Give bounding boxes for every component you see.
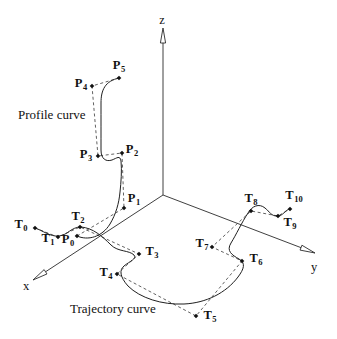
point-label-subscript: 2 — [134, 148, 138, 158]
point-label-T10: T10 — [285, 189, 302, 203]
point-label-P1: P1 — [128, 192, 140, 206]
control-point-marker-T7 — [210, 245, 215, 250]
diagram-canvas — [0, 0, 337, 339]
control-point-marker-T2 — [78, 225, 83, 230]
point-label-subscript: 6 — [258, 257, 262, 267]
point-label-P0: P0 — [62, 233, 74, 247]
axis-label-x: x — [23, 280, 29, 293]
point-label-base: P — [126, 142, 134, 156]
axis-x-arrowhead-icon — [33, 270, 47, 280]
point-label-P3: P3 — [80, 148, 92, 162]
point-label-subscript: 10 — [294, 194, 303, 204]
point-label-base: T — [195, 236, 203, 250]
control-point-marker-T0 — [33, 226, 38, 231]
point-label-base: T — [249, 251, 257, 265]
point-label-T1: T1 — [41, 232, 54, 246]
point-label-subscript: 0 — [70, 238, 74, 248]
point-label-T2: T2 — [71, 210, 84, 224]
point-label-subscript: 5 — [121, 64, 125, 74]
axis-y-arrowhead-icon — [300, 245, 315, 253]
point-label-T9: T9 — [283, 216, 296, 230]
point-label-subscript: 0 — [23, 223, 27, 233]
axis-z-arrowhead-icon — [160, 28, 165, 43]
point-label-subscript: 2 — [80, 215, 84, 225]
point-label-subscript: 3 — [154, 250, 158, 260]
profile-trajectory-diagram: Profile curve Trajectory curve P0P1P2P3P… — [0, 0, 337, 339]
point-label-T6: T6 — [249, 252, 262, 266]
point-label-P2: P2 — [126, 143, 138, 157]
control-point-marker-P4 — [90, 84, 95, 89]
point-label-base: T — [283, 215, 291, 229]
control-point-marker-P0 — [75, 234, 80, 239]
control-point-marker-T3 — [137, 252, 142, 257]
control-point-marker-T10 — [288, 207, 293, 212]
point-label-T3: T3 — [145, 245, 158, 259]
point-label-P5: P5 — [113, 59, 125, 73]
control-point-marker-T9 — [276, 214, 281, 219]
point-label-base: P — [80, 147, 88, 161]
point-label-subscript: 1 — [136, 197, 140, 207]
control-point-marker-P2 — [120, 151, 125, 156]
point-label-subscript: 3 — [88, 153, 92, 163]
axes-group — [33, 28, 315, 280]
point-label-subscript: 4 — [108, 271, 112, 281]
point-label-base: P — [75, 76, 83, 90]
point-label-T8: T8 — [244, 192, 257, 206]
point-label-base: T — [285, 188, 293, 202]
point-label-subscript: 8 — [253, 197, 257, 207]
point-label-base: T — [203, 308, 211, 322]
point-label-base: T — [145, 244, 153, 258]
point-label-T5: T5 — [203, 309, 216, 323]
point-label-base: T — [244, 191, 252, 205]
control-point-marker-T1 — [56, 235, 61, 240]
point-label-T0: T0 — [14, 218, 27, 232]
point-label-subscript: 9 — [292, 221, 296, 231]
profile-curve-title: Profile curve — [18, 108, 86, 121]
point-label-base: P — [113, 58, 121, 72]
point-label-subscript: 5 — [212, 314, 216, 324]
control-point-marker-P3 — [96, 154, 101, 159]
point-label-base: T — [99, 265, 107, 279]
control-point-marker-P1 — [122, 206, 127, 211]
point-label-subscript: 7 — [204, 242, 208, 252]
point-label-base: T — [41, 231, 49, 245]
control-point-marker-P5 — [117, 76, 122, 81]
axis-label-z: z — [159, 14, 165, 27]
trajectory-curve-title: Trajectory curve — [70, 302, 156, 315]
point-label-base: P — [62, 232, 70, 246]
axis-label-y: y — [311, 261, 317, 274]
axis-y-line — [163, 195, 301, 248]
point-label-subscript: 4 — [83, 82, 87, 92]
point-label-subscript: 1 — [50, 237, 54, 247]
point-label-base: P — [128, 191, 136, 205]
point-label-T4: T4 — [99, 266, 112, 280]
point-label-P4: P4 — [75, 77, 87, 91]
point-label-base: T — [14, 217, 22, 231]
point-label-T7: T7 — [195, 237, 208, 251]
point-label-base: T — [71, 209, 79, 223]
